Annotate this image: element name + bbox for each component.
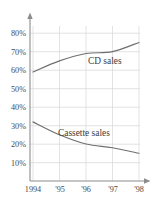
- y-tick-label-80: 80%: [11, 29, 26, 38]
- y-tick-label-60: 60%: [11, 66, 26, 75]
- series-label-cassette-sales: Cassette sales: [58, 128, 110, 138]
- y-axis-arrow-icon: [27, 13, 32, 20]
- series-label-cd-sales: CD sales: [88, 56, 122, 66]
- line-chart: 80% 70% 60% 50% 40% 30% 20% 10% 1994 '95…: [0, 0, 153, 205]
- axis-lines: [27, 13, 150, 184]
- y-tick-label-30: 30%: [11, 122, 26, 131]
- x-tick-labels: 1994 '95 '96 '97 '98: [25, 185, 144, 194]
- x-tick-label-1997: '97: [108, 185, 118, 194]
- chart-canvas: 80% 70% 60% 50% 40% 30% 20% 10% 1994 '95…: [0, 0, 153, 205]
- y-tick-label-10: 10%: [11, 159, 26, 168]
- x-tick-label-1998: '98: [134, 185, 144, 194]
- y-tick-label-40: 40%: [11, 103, 26, 112]
- x-tick-label-1994: 1994: [25, 185, 41, 194]
- y-tick-label-20: 20%: [11, 140, 26, 149]
- y-tick-labels: 80% 70% 60% 50% 40% 30% 20% 10%: [11, 29, 26, 168]
- x-tick-label-1996: '96: [81, 185, 91, 194]
- y-tick-label-50: 50%: [11, 85, 26, 94]
- x-axis-arrow-icon: [144, 178, 151, 183]
- vertical-gridlines: [33, 26, 139, 181]
- x-tick-label-1995: '95: [55, 185, 65, 194]
- y-tick-label-70: 70%: [11, 48, 26, 57]
